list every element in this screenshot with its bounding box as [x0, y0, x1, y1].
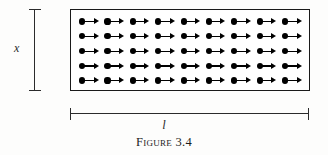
dipole-arrow-right-icon: [79, 61, 100, 70]
dipole-arrow-right-icon: [282, 76, 303, 85]
dipole-arrow-right-icon: [257, 32, 278, 41]
arrow-head: [144, 33, 149, 39]
dipole-row: [71, 47, 309, 56]
dipole-arrow-right-icon: [231, 61, 252, 70]
arrow-head: [220, 48, 225, 54]
dipole-arrow-right-icon: [104, 17, 125, 26]
dipole-row: [71, 32, 309, 41]
dipole-arrow-right-icon: [155, 47, 176, 56]
arrow-head: [119, 48, 124, 54]
arrow-head: [119, 63, 124, 69]
vertical-dimension-line: [28, 9, 41, 91]
arrow-head: [144, 77, 149, 83]
dipole-arrow-right-icon: [130, 61, 151, 70]
dipole-arrow-right-icon: [231, 32, 252, 41]
dipole-arrow-right-icon: [181, 76, 202, 85]
arrow-head: [297, 77, 302, 83]
dipole-grid: [71, 10, 309, 90]
dimension-line-vertical: [34, 9, 35, 91]
dipole-arrow-right-icon: [231, 47, 252, 56]
dipole-arrow-right-icon: [79, 47, 100, 56]
arrow-head: [195, 33, 200, 39]
dipole-arrow-right-icon: [181, 61, 202, 70]
dipole-arrow-right-icon: [206, 76, 227, 85]
arrow-head: [220, 77, 225, 83]
arrow-head: [170, 77, 175, 83]
arrow-head: [297, 48, 302, 54]
dipole-arrow-right-icon: [79, 32, 100, 41]
dipole-arrow-right-icon: [282, 47, 303, 56]
dipole-arrow-right-icon: [257, 61, 278, 70]
dipole-arrow-right-icon: [206, 32, 227, 41]
arrow-head: [119, 77, 124, 83]
dimension-cap-bottom: [29, 90, 41, 91]
dipole-arrow-right-icon: [206, 47, 227, 56]
dipole-arrow-right-icon: [155, 76, 176, 85]
arrow-head: [246, 33, 251, 39]
arrow-head: [297, 63, 302, 69]
dimension-line-horizontal: [70, 113, 309, 114]
dipole-arrow-right-icon: [257, 17, 278, 26]
arrow-head: [144, 48, 149, 54]
arrow-head: [170, 63, 175, 69]
dipole-arrow-right-icon: [181, 17, 202, 26]
arrow-head: [94, 77, 99, 83]
arrow-head: [94, 18, 99, 24]
arrow-head: [170, 48, 175, 54]
arrow-head: [246, 48, 251, 54]
arrow-head: [246, 18, 251, 24]
dipole-arrow-right-icon: [104, 76, 125, 85]
dipole-arrow-right-icon: [206, 17, 227, 26]
dipole-arrow-right-icon: [130, 32, 151, 41]
dipole-arrow-right-icon: [206, 61, 227, 70]
arrow-head: [271, 63, 276, 69]
dipole-arrow-right-icon: [257, 47, 278, 56]
arrow-head: [195, 63, 200, 69]
arrow-head: [220, 63, 225, 69]
dimension-cap-right: [308, 108, 309, 120]
dipole-arrow-right-icon: [130, 76, 151, 85]
arrow-head: [195, 77, 200, 83]
arrow-head: [220, 33, 225, 39]
arrow-head: [271, 48, 276, 54]
arrow-head: [119, 18, 124, 24]
arrow-head: [170, 33, 175, 39]
arrow-head: [119, 33, 124, 39]
dipole-row: [71, 61, 309, 70]
figure-caption: Figure 3.4: [0, 136, 328, 149]
dimension-label-l: l: [0, 119, 328, 132]
dipole-row: [71, 17, 309, 26]
dipole-arrow-right-icon: [104, 32, 125, 41]
arrow-head: [271, 77, 276, 83]
dipole-arrow-right-icon: [181, 32, 202, 41]
figure-3-4: x l Figure 3.4: [0, 0, 328, 155]
dipole-arrow-right-icon: [130, 17, 151, 26]
arrow-head: [220, 18, 225, 24]
arrow-head: [195, 18, 200, 24]
dipole-arrow-right-icon: [104, 61, 125, 70]
dipole-arrow-right-icon: [282, 17, 303, 26]
arrow-head: [297, 18, 302, 24]
arrow-head: [271, 33, 276, 39]
dipole-arrow-right-icon: [155, 32, 176, 41]
magnetized-slab-rectangle: [70, 9, 310, 91]
dipole-arrow-right-icon: [155, 61, 176, 70]
dipole-arrow-right-icon: [79, 17, 100, 26]
dipole-arrow-right-icon: [155, 17, 176, 26]
dipole-arrow-right-icon: [104, 47, 125, 56]
arrow-head: [94, 33, 99, 39]
dipole-row: [71, 76, 309, 85]
arrow-head: [271, 18, 276, 24]
arrow-head: [246, 63, 251, 69]
dipole-arrow-right-icon: [282, 32, 303, 41]
arrow-head: [144, 63, 149, 69]
arrow-head: [94, 63, 99, 69]
dipole-arrow-right-icon: [130, 47, 151, 56]
dipole-arrow-right-icon: [79, 76, 100, 85]
arrow-head: [94, 48, 99, 54]
arrow-head: [246, 77, 251, 83]
dimension-label-x: x: [14, 42, 19, 54]
arrow-head: [170, 18, 175, 24]
arrow-head: [297, 33, 302, 39]
dipole-arrow-right-icon: [282, 61, 303, 70]
